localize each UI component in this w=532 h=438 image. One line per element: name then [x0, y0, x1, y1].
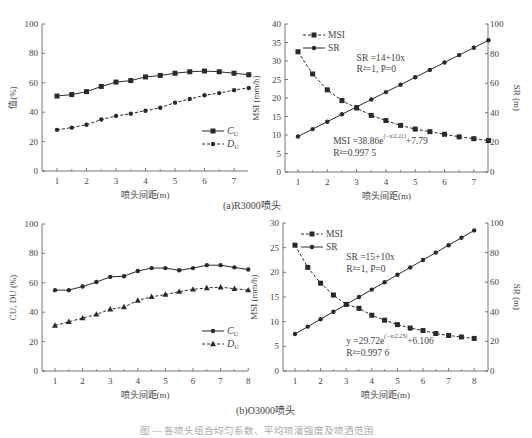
tick-label: 60	[29, 278, 39, 288]
square-marker-icon	[128, 78, 133, 83]
tick-label: 8	[246, 376, 251, 386]
dot-marker-icon	[486, 38, 490, 42]
y-axis-label: MSI (mm/h)	[249, 274, 259, 319]
dot-marker-icon	[108, 275, 112, 279]
square-marker-icon	[457, 134, 462, 139]
triangle-marker-icon	[121, 304, 127, 309]
square-marker-icon	[446, 333, 451, 338]
chart-b-right: 05101520253002040608010012345678喷头间距(m)M…	[249, 218, 522, 400]
dot-marker-icon	[459, 236, 463, 240]
x-axis-label: 喷头间距(m)	[121, 189, 170, 200]
square-marker-icon	[318, 281, 323, 286]
dot-marker-icon	[370, 287, 374, 291]
equation-annotation: SR =15+10x	[346, 252, 395, 262]
y-axis-label: 值(%)	[7, 86, 18, 109]
x-axis-label: 喷头间距(m)	[361, 389, 410, 400]
legend-label: MSI	[328, 30, 345, 40]
square-marker-icon	[459, 334, 464, 339]
triangle-marker-icon	[93, 311, 99, 316]
dot-marker-icon	[408, 265, 412, 269]
triangle-marker-icon	[149, 294, 155, 299]
tick-label: 5	[173, 176, 178, 186]
tick-label: 2	[84, 176, 89, 186]
tick-label: 2	[80, 376, 85, 386]
square-marker-icon	[331, 293, 336, 298]
dot-marker-icon	[306, 324, 310, 328]
legend-label: SR	[326, 242, 338, 252]
tick-label: 25	[270, 243, 280, 253]
legend-label: SR	[328, 43, 340, 53]
dot-marker-icon	[218, 263, 222, 267]
tick-label: 100	[490, 218, 504, 228]
dot-marker-icon	[205, 263, 209, 267]
dot-marker-icon	[202, 93, 206, 97]
dot-marker-icon	[163, 266, 167, 270]
tick-label: 2	[325, 177, 330, 187]
tick-label: 20	[272, 93, 282, 103]
square-marker-icon	[305, 265, 310, 270]
tick-label: 10	[272, 130, 282, 140]
x-axis-label: 喷头间距(m)	[362, 190, 411, 201]
tick-label: 40	[272, 19, 282, 29]
dot-marker-icon	[428, 68, 432, 72]
dot-marker-icon	[296, 134, 300, 138]
square-marker-icon	[383, 118, 388, 123]
tick-label: 7	[232, 176, 237, 186]
tick-label: 80	[29, 48, 39, 58]
dot-marker-icon	[211, 142, 215, 146]
tick-label: 10	[270, 317, 280, 327]
square-marker-icon	[173, 71, 178, 76]
triangle-marker-icon	[210, 341, 216, 346]
dot-marker-icon	[421, 258, 425, 262]
square-marker-icon	[99, 84, 104, 89]
dot-marker-icon	[158, 106, 162, 110]
square-marker-icon	[114, 80, 119, 85]
dot-marker-icon	[136, 269, 140, 273]
square-marker-icon	[158, 73, 163, 78]
dot-marker-icon	[114, 114, 118, 118]
chart-b-left: 02040608010012345678喷头间距(m)CU, DU (%)CUD…	[8, 219, 251, 400]
dot-marker-icon	[246, 267, 250, 271]
tick-label: 4	[136, 376, 141, 386]
tick-label: 40	[490, 307, 500, 317]
tick-label: 80	[490, 49, 500, 59]
chart-a-right: 05101520253035400204060801001234567喷头间距(…	[251, 19, 522, 201]
tick-label: 100	[490, 19, 504, 29]
dot-marker-icon	[67, 288, 71, 292]
square-marker-icon	[369, 113, 374, 118]
square-marker-icon	[382, 318, 387, 323]
triangle-marker-icon	[135, 297, 141, 302]
dot-marker-icon	[217, 91, 221, 95]
dot-marker-icon	[457, 53, 461, 57]
dot-marker-icon	[354, 105, 358, 109]
square-marker-icon	[310, 232, 315, 237]
tick-label: 40	[490, 108, 500, 118]
tick-label: 8	[472, 376, 477, 386]
tick-label: 3	[108, 376, 113, 386]
dot-marker-icon	[446, 243, 450, 247]
square-marker-icon	[69, 92, 74, 97]
dot-marker-icon	[442, 60, 446, 64]
tick-label: 15	[270, 292, 280, 302]
legend-label: DU	[226, 138, 239, 150]
legend-label: DU	[226, 338, 239, 350]
square-marker-icon	[486, 138, 491, 143]
legend-label: CU	[227, 325, 239, 337]
dot-marker-icon	[177, 268, 181, 272]
x-axis-label: 喷头间距(m)	[121, 389, 170, 400]
square-marker-icon	[421, 328, 426, 333]
dot-marker-icon	[382, 280, 386, 284]
tick-label: 4	[370, 376, 375, 386]
square-marker-icon	[310, 71, 315, 76]
square-marker-icon	[433, 331, 438, 336]
tick-label: 20	[29, 337, 39, 347]
square-marker-icon	[395, 322, 400, 327]
equation-annotation: MSI =38.86e(−x/2.11)+7.79	[333, 133, 428, 146]
square-marker-icon	[471, 136, 476, 141]
dot-marker-icon	[80, 284, 84, 288]
triangle-marker-icon	[218, 284, 224, 289]
caption-panel-a: (a)R3000喷头	[223, 197, 281, 212]
dot-marker-icon	[384, 90, 388, 94]
dot-marker-icon	[312, 46, 316, 50]
triangle-marker-icon	[204, 285, 210, 290]
